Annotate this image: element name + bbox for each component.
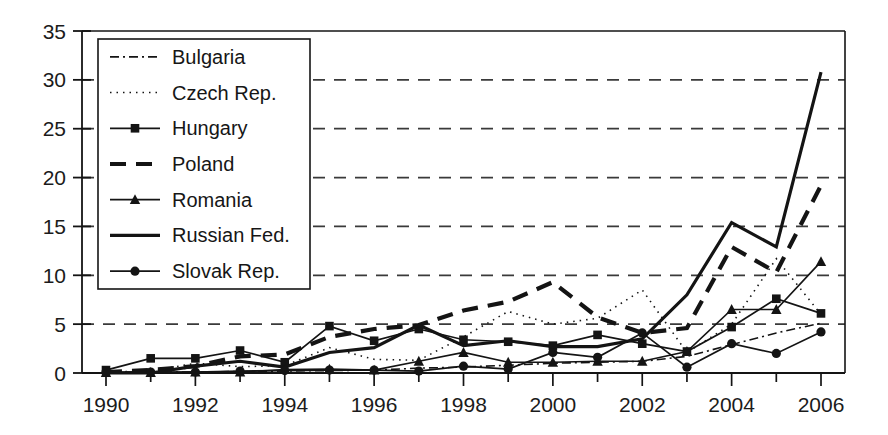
data-point-marker (146, 354, 155, 363)
legend-label: Bulgaria (172, 46, 246, 68)
legend-label: Russian Fed. (172, 224, 290, 246)
x-tick-label: 1990 (83, 393, 130, 416)
legend-label: Czech Rep. (172, 82, 277, 104)
data-point-marker (325, 365, 334, 374)
data-point-marker (548, 348, 557, 357)
data-point-marker (459, 362, 468, 371)
chart-figure: 0510152025303519901992199419961998200020… (0, 0, 888, 435)
x-tick-label: 2002 (619, 393, 666, 416)
x-tick-label: 1998 (440, 393, 487, 416)
data-point-marker (772, 294, 781, 303)
y-axis-ticks: 05101520253035 (43, 20, 91, 385)
data-point-marker (414, 366, 423, 375)
data-point-marker (772, 349, 781, 358)
data-point-marker (593, 331, 602, 340)
data-point-marker (458, 347, 468, 357)
data-point-marker (727, 339, 736, 348)
data-point-marker (235, 366, 244, 375)
data-point-marker (101, 367, 110, 376)
y-tick-label: 30 (43, 68, 66, 91)
data-point-marker (131, 124, 140, 133)
legend-label: Slovak Rep. (172, 260, 280, 282)
y-tick-label: 5 (54, 313, 66, 336)
legend-label: Romania (172, 189, 253, 211)
y-tick-label: 25 (43, 117, 66, 140)
chart-legend: BulgariaCzech Rep.HungaryPolandRomaniaRu… (98, 39, 310, 289)
data-point-marker (280, 366, 289, 375)
data-point-marker (146, 367, 155, 376)
data-point-marker (504, 364, 513, 373)
y-tick-label: 35 (43, 20, 66, 43)
legend-label: Poland (172, 153, 234, 175)
data-point-marker (130, 267, 139, 276)
x-axis-ticks: 199019921994199619982000200220042006 (83, 373, 845, 416)
y-tick-label: 0 (54, 362, 66, 385)
line-chart-canvas: 0510152025303519901992199419961998200020… (0, 0, 888, 435)
x-tick-label: 2004 (708, 393, 755, 416)
data-point-marker (370, 365, 379, 374)
data-point-marker (325, 322, 334, 331)
x-tick-label: 1994 (261, 393, 308, 416)
data-point-marker (593, 353, 602, 362)
data-point-marker (682, 363, 691, 372)
y-tick-label: 15 (43, 215, 66, 238)
data-point-marker (191, 354, 200, 363)
data-point-marker (816, 256, 826, 266)
y-tick-label: 10 (43, 264, 66, 287)
data-point-marker (236, 346, 245, 355)
x-tick-label: 2000 (530, 393, 577, 416)
x-tick-label: 2006 (798, 393, 845, 416)
data-point-marker (727, 323, 736, 332)
legend-label: Hungary (172, 117, 248, 139)
data-point-marker (817, 309, 826, 318)
data-point-marker (370, 336, 379, 345)
data-point-marker (816, 327, 825, 336)
x-tick-label: 1992 (172, 393, 219, 416)
y-tick-label: 20 (43, 166, 66, 189)
data-point-marker (638, 328, 647, 337)
x-tick-label: 1996 (351, 393, 398, 416)
data-point-marker (191, 367, 200, 376)
